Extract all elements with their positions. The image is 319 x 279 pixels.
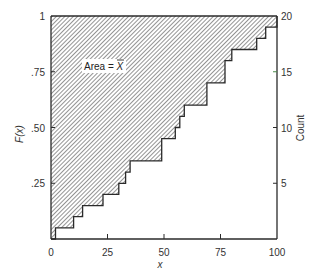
x-tick-label: 100 [269,247,286,258]
y-right-tick-label: 5 [281,178,287,189]
plot-area [51,16,277,239]
y-left-tick-label: 1 [39,11,45,22]
area-annotation: Area = X [84,61,124,72]
y-right-tick-label: 15 [281,67,293,78]
y-right-tick-label: 20 [281,11,293,22]
x-tick-label: 50 [158,247,170,258]
x-axis-title: x [157,259,164,270]
y-right-axis-title: Count [295,114,306,141]
x-tick-label: 25 [102,247,114,258]
x-axis-ticks: 0255075100 [48,234,286,258]
cdf-chart: 0255075100 .25.50.751 5101520 Area = X x… [0,0,319,279]
y-left-axis-title: F(x) [14,125,25,143]
y-left-tick-label: .75 [31,67,45,78]
y-left-tick-label: .25 [31,178,45,189]
y-right-tick-label: 10 [281,123,293,134]
y-right-axis-ticks: 5101520 [273,11,293,189]
x-tick-label: 0 [48,247,54,258]
y-left-tick-label: .50 [31,123,45,134]
area-annotation-symbol: X [116,61,124,72]
area-annotation-text: Area = [84,61,117,72]
x-tick-label: 75 [215,247,227,258]
